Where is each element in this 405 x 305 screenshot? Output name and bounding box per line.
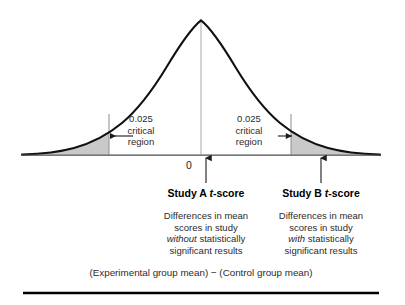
study-b-description: Differences in mean scores in study with… [256, 210, 386, 256]
study-a-desc-line3-rest: statistically [197, 233, 246, 244]
study-b-desc-line3: with statistically [256, 233, 386, 245]
left-alpha-value: 0.025 [114, 113, 168, 125]
study-b-heading-prefix: Study B [282, 187, 325, 199]
study-b-desc-line3-rest: statistically [305, 233, 354, 244]
right-region-word: region [222, 136, 276, 148]
axis-zero-label: 0 [186, 159, 192, 171]
right-critical-region-label: 0.025 critical region [222, 113, 276, 148]
study-a-desc-line1: Differences in mean [141, 210, 271, 222]
figure-caption: (Experimental group mean) − (Control gro… [23, 267, 379, 278]
study-b-desc-line4: significant results [256, 245, 386, 257]
study-a-heading-prefix: Study A [168, 187, 210, 199]
study-a-heading: Study A t-score [141, 187, 271, 199]
study-b-heading-suffix: -score [328, 187, 360, 199]
left-critical-region-label: 0.025 critical region [114, 113, 168, 148]
right-alpha-value: 0.025 [222, 113, 276, 125]
study-a-desc-emphasis: without [167, 233, 197, 244]
study-a-desc-line4: significant results [141, 245, 271, 257]
study-a-description: Differences in mean scores in study with… [141, 210, 271, 256]
study-b-desc-line1: Differences in mean [256, 210, 386, 222]
distribution-graphic [0, 0, 405, 305]
study-b-desc-emphasis: with [288, 233, 305, 244]
study-a-desc-line3: without statistically [141, 233, 271, 245]
left-region-word: region [114, 136, 168, 148]
right-critical-word: critical [222, 125, 276, 137]
statistical-distribution-figure: 0.025 critical region 0.025 critical reg… [0, 0, 405, 305]
study-b-heading: Study B t-score [256, 187, 386, 199]
study-b-desc-line2: scores in study [256, 222, 386, 234]
study-a-heading-suffix: -score [213, 187, 245, 199]
study-a-desc-line2: scores in study [141, 222, 271, 234]
left-critical-word: critical [114, 125, 168, 137]
